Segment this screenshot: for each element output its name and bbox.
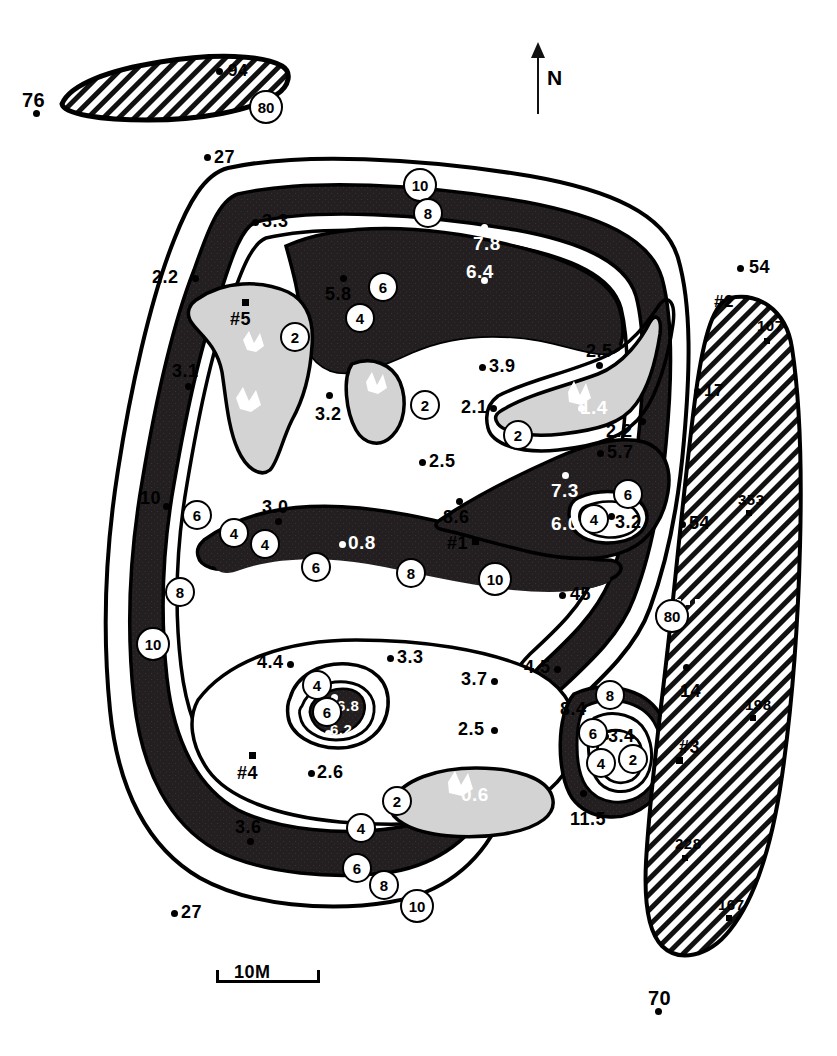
station-label: 2.2 [152,268,179,286]
gray-blob-center [346,361,404,443]
station-dot [242,299,249,306]
contour-label-tag: 10 [400,889,434,923]
station-dot [247,838,254,845]
station-label: 76 [22,90,45,110]
station-dot [419,459,426,466]
station-label: 27 [214,148,235,166]
station-label: 0.6 [461,785,489,804]
station-label: 3.1 [172,362,199,380]
station-label: 27 [181,903,202,921]
station-label: 10 [140,489,161,507]
station-label: 6.4 [466,262,494,281]
station-label: 17 [704,382,724,399]
station-dot [33,110,40,117]
station-dot [252,219,259,226]
station-dot [679,521,686,528]
station-dot [682,855,688,861]
contour-label-tag: 10 [136,627,170,661]
station-label: #1 [447,534,468,552]
station-dot [171,910,178,917]
station-label: 2.2 [606,422,633,440]
station-dot [746,510,752,516]
contour-label-tag: 2 [382,786,412,816]
contour-label-tag: 6 [342,853,372,883]
station-label: 167 [718,897,745,912]
contour-label-tag: 2 [410,390,440,420]
station-label: 6.0 [551,514,579,533]
station-label: 3.2 [615,513,642,531]
contour-label-tag: 6 [578,718,608,748]
station-label: 7.8 [473,234,501,253]
station-dot [163,503,170,510]
station-label: #4 [237,764,258,782]
contour-label-tag: 8 [413,198,443,228]
station-dot [596,362,603,369]
station-label: 2.5 [586,342,613,360]
station-dot [580,790,587,797]
station-dot [676,757,683,764]
station-dot [481,224,488,231]
station-dot [340,275,347,282]
station-dot [308,770,315,777]
north-arrow-shaft [537,52,539,114]
station-label: 3.4 [608,727,635,745]
station-label: 45 [570,585,591,603]
station-label: 3.0 [262,498,289,516]
station-label: 4.4 [257,653,284,671]
station-dot [639,418,646,425]
station-label: 3.9 [489,357,516,375]
station-dot [491,678,498,685]
contour-label-tag: 4 [302,670,332,700]
station-label: 2.5 [429,452,456,470]
station-label: 3.7 [461,670,488,688]
station-label: 2.6 [317,763,344,781]
station-dot [456,498,463,505]
station-dot [683,664,690,671]
contour-label-tag: 80 [655,599,689,633]
station-label: 4.5 [524,658,551,676]
station-label: #3 [679,738,700,756]
contour-label-tag: 6 [182,500,212,530]
station-dot [764,338,770,344]
station-dot [554,666,561,673]
contour-label-tag: 8 [165,577,195,607]
station-label: 7.3 [551,481,579,500]
station-label: 2.5 [458,720,485,738]
scale-label: 10M [234,962,271,983]
station-label: 3.2 [315,405,342,423]
station-label: 228 [675,836,702,851]
station-label: 94 [228,62,248,79]
station-dot [481,277,488,284]
station-label: 11.5 [570,810,606,828]
station-dot [325,730,332,737]
station-label: 8.4 [560,700,587,718]
station-dot [490,405,497,412]
contour-label-tag: 6 [312,697,342,727]
north-label: N [547,66,562,90]
station-dot [216,68,223,75]
contour-label-tag: 6 [613,479,643,509]
contour-label-tag: 4 [346,813,376,843]
station-dot [472,538,479,545]
station-dot [737,265,744,272]
contour-label-tag: 4 [250,529,280,559]
station-dot [694,388,701,395]
station-label: 3.3 [262,212,289,230]
contour-label-tag: 2 [618,744,648,774]
contour-label-tag: 8 [369,870,399,900]
contour-label-tag: 10 [478,562,512,596]
station-dot [491,727,498,734]
station-label: 3.6 [235,818,262,836]
contour-label-tag: 8 [595,680,625,710]
station-label: 107 [757,318,784,333]
station-dot [339,541,346,548]
station-dot [275,518,282,525]
contour-label-tag: 2 [280,322,310,352]
station-label: 3.3 [397,648,424,666]
station-dot [185,383,192,390]
contour-label-tag: 80 [249,90,283,124]
station-dot [192,275,199,282]
station-label: 70 [648,988,671,1008]
station-label: 5.7 [607,443,634,461]
contour-label-tag: 2 [503,420,533,450]
